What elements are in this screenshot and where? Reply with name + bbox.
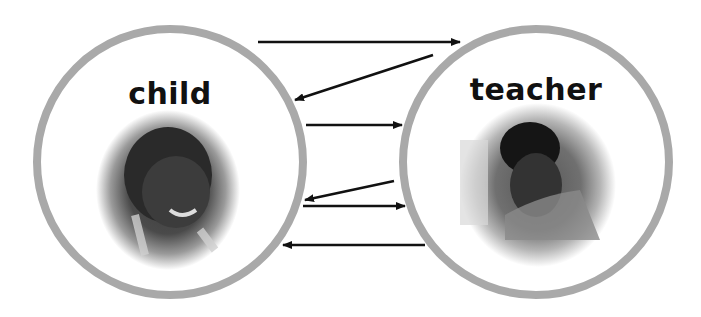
teacher-label: teacher [466,72,606,107]
baby-photo-icon [96,110,240,270]
arrow-teacher-to-child-2 [305,181,394,200]
child-label: child [100,76,240,111]
child-node [37,29,303,295]
teacher-node [403,29,669,295]
diagram-canvas [0,0,701,317]
teacher-photo-icon [460,103,616,267]
arrow-teacher-to-child-1 [295,55,433,100]
